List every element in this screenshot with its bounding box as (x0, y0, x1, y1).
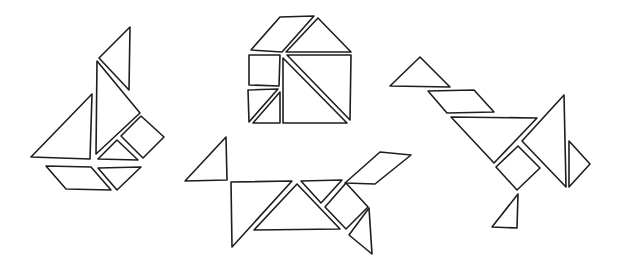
house-figure: House (248, 16, 351, 123)
sailboat-jib-sail-large-triangle (31, 94, 92, 159)
fox-tail-small-triangle (185, 137, 227, 181)
house-window-square (249, 55, 280, 86)
crane-figure: Crane (390, 57, 590, 228)
crane-foot-medium-triangle (492, 194, 518, 228)
sailboat-figure: Sailboat (31, 27, 164, 190)
fox-figure: Fox (185, 137, 411, 254)
crane-tail-small-triangle (569, 141, 590, 187)
fox-head-parallelogram (345, 152, 411, 184)
tangram-canvas: Sailboat House Fox Crane (0, 0, 620, 262)
crane-head-small-triangle (390, 57, 450, 87)
crane-neck-parallelogram (428, 90, 494, 113)
